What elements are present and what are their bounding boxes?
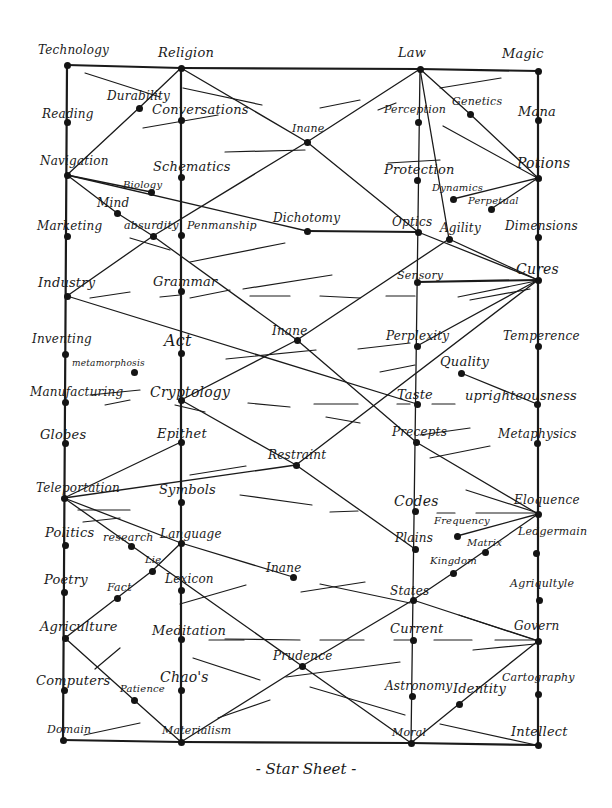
stray-stroke	[95, 648, 120, 669]
node-label-absurdity: absurdity	[124, 220, 179, 231]
stray-stroke	[330, 511, 358, 512]
node-label-agriculture-left: Agriculture	[40, 620, 118, 633]
node-dot-eloquence	[535, 511, 542, 518]
node-label-restraint: Restraint	[268, 449, 326, 461]
stray-stroke	[240, 495, 312, 505]
node-dot-conversations	[178, 117, 185, 124]
node-dot-restraint	[293, 462, 300, 469]
node-dot-quality	[458, 370, 465, 377]
node-dot-chaos	[178, 687, 185, 694]
node-label-industry: Industry	[38, 276, 95, 289]
node-label-biology: Biology	[123, 180, 162, 190]
node-label-codes: Codes	[394, 494, 439, 508]
node-dot-marketing	[64, 233, 71, 240]
stray-stroke	[470, 289, 530, 300]
node-dot-current	[410, 637, 417, 644]
node-dot-precepts	[413, 439, 420, 446]
node-label-dichotomy: Dichotomy	[273, 212, 340, 224]
node-dot-penmanship	[178, 232, 185, 239]
node-dot-domain	[60, 737, 67, 744]
node-label-agriculture-right: Agriqultyle	[510, 578, 574, 589]
node-label-research: research	[103, 532, 154, 543]
node-label-schematics: Schematics	[153, 160, 231, 173]
node-dot-symbols	[178, 499, 185, 506]
stray-stroke	[180, 585, 246, 604]
node-dot-perplexity	[414, 343, 421, 350]
node-label-prudence: Prudence	[273, 650, 332, 662]
edge-religion-law	[181, 68, 420, 69]
node-dot-cures	[535, 277, 542, 284]
stray-stroke	[90, 292, 130, 298]
node-dot-manufacturing	[62, 399, 69, 406]
node-label-current: Current	[390, 622, 443, 635]
node-label-marketing: Marketing	[37, 220, 102, 232]
node-label-metaphysics: Metaphysics	[498, 428, 577, 440]
node-dot-fact	[114, 595, 121, 602]
node-dot-religion	[178, 65, 185, 72]
node-label-protection: Protection	[384, 163, 455, 176]
node-label-cryptology: Cryptology	[150, 385, 230, 399]
node-label-patience: Patience	[120, 684, 165, 694]
node-dot-poetry	[61, 589, 68, 596]
node-label-law: Law	[398, 46, 426, 59]
node-dot-mind	[114, 210, 121, 217]
node-dot-astronomy	[409, 693, 416, 700]
node-label-epithet: Epithet	[157, 427, 207, 440]
node-label-inane-mid: Inane	[272, 325, 307, 337]
edge-moral-intellect	[411, 743, 538, 745]
node-dot-lexicon	[178, 587, 185, 594]
node-label-meditation: Meditation	[152, 624, 226, 637]
node-label-genetics: Genetics	[452, 96, 502, 107]
node-dot-navigation	[64, 172, 71, 179]
node-label-lie: Lie	[145, 555, 161, 565]
node-label-globes: Globes	[40, 428, 86, 441]
node-dot-agriculture-left	[62, 635, 69, 642]
node-label-inventing: Inventing	[32, 333, 92, 345]
node-label-poetry: Poetry	[44, 573, 88, 586]
node-label-politics: Politics	[45, 526, 94, 539]
node-dot-plains	[412, 546, 419, 553]
node-dot-act	[178, 350, 185, 357]
node-label-kingdom: Kingdom	[430, 556, 477, 566]
node-dot-intellect	[535, 742, 542, 749]
edge-materialism-moral	[181, 742, 411, 743]
edge-technology-religion	[67, 65, 181, 68]
node-dot-matrix	[482, 549, 489, 556]
node-label-fact: Fact	[107, 582, 132, 593]
edge-law-magic	[420, 69, 538, 71]
node-dot-frequency	[454, 533, 461, 540]
node-label-cartography: Cartography	[502, 672, 575, 683]
edge-agility-law	[420, 69, 449, 239]
node-label-ledgermain: Ledgermain	[518, 526, 587, 537]
node-dot-moral	[408, 740, 415, 747]
node-dot-dichotomy	[304, 228, 311, 235]
node-label-symbols: Symbols	[159, 483, 216, 496]
node-dot-teleportation	[61, 495, 68, 502]
stray-stroke	[190, 243, 285, 262]
node-label-inane-top: Inane	[292, 123, 325, 134]
stray-stroke	[473, 644, 535, 650]
stray-stroke	[320, 100, 360, 108]
node-dot-technology	[64, 62, 71, 69]
stray-stroke	[358, 343, 410, 349]
node-label-penmanship: Penmanship	[187, 220, 257, 231]
node-label-astronomy: Astronomy	[385, 680, 453, 692]
node-label-technology: Technology	[38, 44, 109, 56]
node-dot-politics	[62, 542, 69, 549]
node-label-act: Act	[164, 333, 192, 349]
edge-dichotomy-optics	[307, 231, 418, 232]
node-dot-cartography	[535, 691, 542, 698]
node-dot-temperence	[535, 343, 542, 350]
node-dot-industry	[64, 293, 71, 300]
stray-stroke	[83, 518, 120, 522]
node-dot-identity	[456, 701, 463, 708]
node-label-computers: Computers	[36, 674, 110, 687]
stray-stroke	[190, 290, 230, 298]
stray-stroke	[430, 446, 490, 458]
node-dot-ledgermain	[533, 550, 540, 557]
stray-stroke	[226, 350, 316, 359]
node-label-perplexity: Perplexity	[386, 330, 449, 342]
node-label-language: Language	[160, 528, 222, 540]
stray-stroke	[248, 403, 290, 407]
node-label-perception: Perception	[384, 104, 446, 115]
